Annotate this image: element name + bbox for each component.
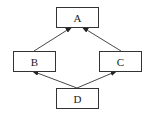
node-c: C xyxy=(100,52,142,72)
nodes-group: A B C D xyxy=(14,8,142,109)
node-c-label: C xyxy=(117,56,124,68)
edge-b-to-a xyxy=(34,27,72,51)
edge-c-to-a xyxy=(82,27,121,51)
node-a: A xyxy=(57,8,99,28)
node-a-label: A xyxy=(74,12,82,24)
node-d-label: D xyxy=(74,93,82,105)
dependency-diagram: A B C D xyxy=(0,0,152,119)
node-b: B xyxy=(14,52,56,72)
edge-d-to-c xyxy=(77,71,117,88)
edge-d-to-b xyxy=(32,71,77,88)
node-b-label: B xyxy=(31,56,38,68)
node-d: D xyxy=(57,89,99,109)
